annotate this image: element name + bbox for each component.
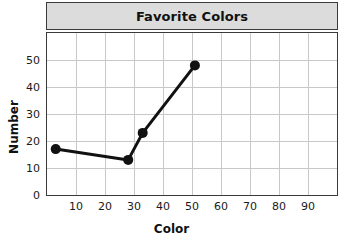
chart-title-bar: Favorite Colors [46, 2, 338, 30]
y-axis-title: Number [7, 87, 21, 167]
chart-title: Favorite Colors [136, 9, 248, 24]
plot-area [46, 32, 338, 196]
x-axis-title: Color [0, 222, 343, 236]
x-tick-label: 40 [156, 200, 170, 213]
x-tick-label: 60 [214, 200, 228, 213]
y-tick-label: 0 [8, 189, 40, 202]
x-tick-label: 90 [301, 200, 315, 213]
x-tick-label: 30 [127, 200, 141, 213]
x-tick-label: 20 [98, 200, 112, 213]
x-tick-label: 10 [69, 200, 83, 213]
x-tick-label: 50 [185, 200, 199, 213]
chart-container: Favorite Colors 01020304050 102030405060… [0, 0, 343, 243]
x-tick-label: 80 [272, 200, 286, 213]
x-tick-label: 70 [243, 200, 257, 213]
y-tick-label: 50 [8, 54, 40, 67]
data-series-line [47, 33, 337, 195]
